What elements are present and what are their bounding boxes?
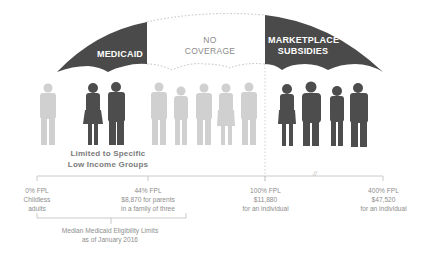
person-gap-4 [217, 84, 235, 146]
tick-44-fpl: 44% FPL $8,870 for parents in a family o… [108, 186, 188, 213]
limited-groups-caption: Limited to Specific Low Income Groups [58, 148, 158, 170]
medicaid-umbrella-panel [57, 22, 147, 72]
person-gap-1 [151, 83, 167, 146]
marketplace-line1: MARKETPLACE [268, 35, 338, 46]
person-childless-adult [40, 84, 56, 146]
tick-100-fpl: 100% FPL $11,880 for an individual [228, 186, 303, 213]
limited-line1: Limited to Specific [58, 148, 158, 159]
no-coverage-line2: COVERAGE [180, 46, 240, 57]
median-line2: as of January 2016 [40, 235, 180, 244]
medicaid-label: MEDICAID [95, 49, 145, 60]
tick-line: 400% FPL [346, 186, 421, 195]
person-parent-man [108, 82, 125, 145]
tick-line: Childless [12, 195, 62, 204]
person-marketplace-2 [302, 82, 321, 147]
tick-line: $47,520 [346, 195, 421, 204]
tick-line: 0% FPL [12, 186, 62, 195]
marketplace-line2: SUBSIDIES [268, 46, 338, 57]
no-coverage-line1: NO [180, 35, 240, 46]
fpl-axis [37, 176, 383, 224]
people-silhouettes [40, 82, 368, 148]
person-marketplace-3 [330, 86, 344, 146]
limited-line2: Low Income Groups [58, 159, 158, 170]
person-marketplace-1 [278, 84, 296, 146]
person-gap-2 [174, 87, 188, 146]
tick-line: in a family of three [108, 204, 188, 213]
marketplace-label: MARKETPLACE SUBSIDIES [268, 35, 338, 57]
tick-line: for an individual [228, 204, 303, 213]
tick-line: $11,880 [228, 195, 303, 204]
median-eligibility-caption: Median Medicaid Eligibility Limits as of… [40, 226, 180, 244]
person-parent-woman [83, 83, 103, 145]
person-marketplace-4 [350, 83, 368, 147]
no-coverage-label: NO COVERAGE [180, 35, 240, 57]
tick-line: 44% FPL [108, 186, 188, 195]
axis-break: // [313, 170, 317, 177]
tick-400-fpl: 400% FPL $47,520 for an individual [346, 186, 421, 213]
tick-line: 100% FPL [228, 186, 303, 195]
person-gap-3 [196, 84, 212, 146]
person-gap-5 [241, 83, 257, 146]
tick-line: $8,870 for parents [108, 195, 188, 204]
tick-0-fpl: 0% FPL Childless adults [12, 186, 62, 213]
tick-line: for an individual [346, 204, 421, 213]
median-line1: Median Medicaid Eligibility Limits [40, 226, 180, 235]
tick-line: adults [12, 204, 62, 213]
